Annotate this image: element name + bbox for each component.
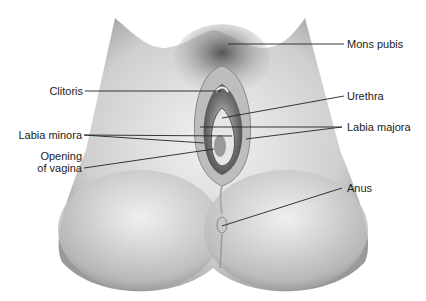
anatomy-diagram: Mons pubis Clitoris Urethra Labia majora… [0,0,426,301]
label-labia-majora: Labia majora [347,121,411,133]
label-anus: Anus [347,182,372,194]
label-opening-of-vagina-line2: of vagina [34,162,82,174]
label-mons-pubis: Mons pubis [347,38,403,50]
label-opening-of-vagina-line1: Opening [34,150,82,162]
label-labia-minora: Labia minora [14,129,82,141]
label-clitoris: Clitoris [46,85,83,97]
label-urethra: Urethra [347,90,384,102]
